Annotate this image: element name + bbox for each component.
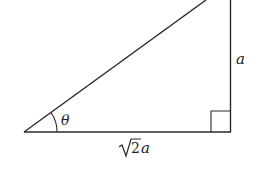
base-variable: a — [141, 139, 150, 157]
right-angle-marker — [211, 111, 231, 132]
angle-arc — [51, 113, 57, 133]
hypotenuse — [24, 0, 206, 132]
vertical-side-label: a — [236, 50, 245, 68]
base-side-label: 2 a — [119, 139, 150, 157]
triangle-diagram: θ a 2 a — [0, 0, 258, 170]
angle-label: θ — [61, 112, 70, 128]
radicand: 2 — [131, 140, 140, 156]
